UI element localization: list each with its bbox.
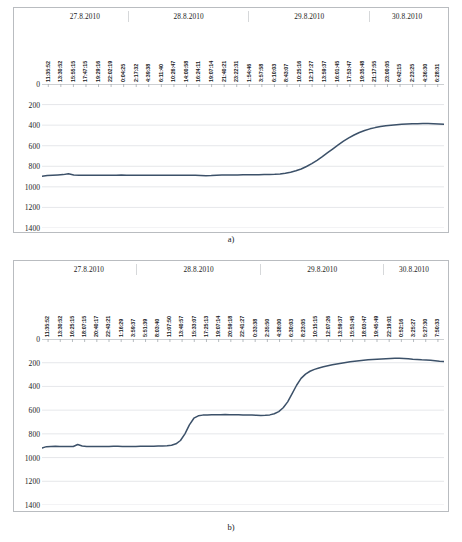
time-tick-label: 19:29:16: [95, 61, 101, 82]
time-tick-label: 16:25:15: [69, 316, 75, 337]
time-tick-label: 13:30:52: [57, 316, 63, 337]
time-tick-label: 13:40:57: [178, 316, 184, 337]
time-tick-label: 18:07:15: [81, 316, 87, 337]
y-tick-label: 200: [29, 358, 40, 367]
time-tick-label: 15:51:45: [349, 316, 355, 337]
chart-b-date-header: 27.8.201028.8.201029.8.201030.8.2010: [42, 264, 444, 275]
time-tick-label: 7:50:33: [434, 319, 440, 337]
time-tick-label: 5:51:39: [142, 319, 148, 337]
date-group-28.8.2010: 28.8.2010: [129, 11, 250, 22]
time-tick-label: 17:47:15: [82, 61, 88, 82]
date-group-28.8.2010: 28.8.2010: [137, 264, 262, 275]
time-tick-label: 19:45:49: [373, 316, 379, 337]
time-tick-label: 10:26:47: [170, 61, 176, 82]
y-tick-label: 1200: [25, 203, 40, 212]
chart-b-line-plot: [42, 339, 444, 505]
time-tick-label: 16:24:11: [195, 61, 201, 82]
y-tick-label: 200: [29, 100, 40, 109]
figure-a: 27.8.201028.8.201029.8.201030.8.2010 11:…: [0, 0, 462, 250]
time-tick-label: 0:42:15: [396, 64, 402, 82]
time-tick-label: 3:57:58: [258, 64, 264, 82]
y-tick-label: 600: [29, 406, 40, 415]
time-tick-label: 22:19:01: [386, 316, 392, 337]
y-tick-label: 1000: [25, 453, 40, 462]
y-tick-label: 800: [29, 162, 40, 171]
y-tick-label: 1400: [25, 501, 40, 510]
y-tick-label: 600: [29, 141, 40, 150]
time-tick-label: 10:15:15: [312, 316, 318, 337]
caption-a: a): [0, 234, 462, 244]
time-tick-label: 11:35:52: [45, 61, 51, 82]
time-tick-label: 20:40:17: [93, 316, 99, 337]
time-tick-label: 21:40:21: [221, 61, 227, 82]
time-tick-label: 6:10:03: [271, 64, 277, 82]
time-tick-label: 12:07:26: [325, 316, 331, 337]
chart-b-y-axis-labels: 0200400600800100012001400: [6, 339, 40, 505]
time-tick-label: 3:25:27: [410, 319, 416, 337]
time-tick-label: 13:59:37: [321, 61, 327, 82]
time-tick-label: 19:07:14: [208, 61, 214, 82]
y-tick-label: 0: [36, 80, 40, 89]
date-group-27.8.2010: 27.8.2010: [42, 11, 129, 22]
y-tick-label: 1200: [25, 477, 40, 486]
time-tick-label: 0:04:25: [120, 64, 126, 82]
time-tick-label: 11:35:52: [44, 316, 50, 337]
chart-b-time-axis-labels: 11:35:5213:30:5216:25:1518:07:1520:40:17…: [42, 277, 444, 337]
time-tick-label: 19:35:48: [359, 61, 365, 82]
figure-page: 27.8.201028.8.201029.8.201030.8.2010 11:…: [0, 0, 462, 542]
time-tick-label: 22:02:19: [107, 61, 113, 82]
y-tick-label: 0: [36, 335, 40, 344]
time-tick-label: 0:52:16: [398, 319, 404, 337]
chart-a-y-axis-labels: 0200400600800100012001400: [6, 84, 40, 228]
time-tick-label: 22:41:27: [239, 316, 245, 337]
time-tick-label: 8:43:07: [283, 64, 289, 82]
time-tick-label: 5:27:30: [422, 319, 428, 337]
data-series-line: [42, 358, 444, 448]
time-tick-label: 4:36:30: [422, 64, 428, 82]
y-tick-label: 800: [29, 429, 40, 438]
y-tick-label: 1400: [25, 224, 40, 233]
time-tick-label: 17:53:47: [346, 61, 352, 82]
figure-b: 27.8.201028.8.201029.8.201030.8.2010 11:…: [0, 250, 462, 542]
time-tick-label: 8:03:40: [154, 319, 160, 337]
time-tick-label: 8:23:05: [300, 319, 306, 337]
time-tick-label: 20:59:18: [227, 316, 233, 337]
date-group-27.8.2010: 27.8.2010: [42, 264, 137, 275]
time-tick-label: 23:00:05: [384, 61, 390, 82]
time-tick-label: 21:17:55: [371, 61, 377, 82]
time-tick-label: 6:30:03: [288, 319, 294, 337]
time-tick-label: 10:25:16: [296, 61, 302, 82]
chart-a-line-plot: [42, 84, 444, 228]
time-tick-label: 12:17:27: [308, 61, 314, 82]
time-tick-label: 18:03:47: [361, 316, 367, 337]
time-tick-label: 6:11:40: [158, 64, 164, 82]
time-tick-label: 1:54:46: [246, 64, 252, 82]
date-group-29.8.2010: 29.8.2010: [249, 11, 370, 22]
time-tick-label: 2:35:50: [264, 319, 270, 337]
time-tick-label: 1:16:29: [118, 319, 124, 337]
time-tick-label: 22:43:21: [105, 316, 111, 337]
caption-b: b): [0, 522, 462, 532]
time-tick-label: 6:28:31: [434, 64, 440, 82]
chart-a-date-header: 27.8.201028.8.201029.8.201030.8.2010: [42, 11, 444, 22]
data-series-line: [42, 124, 444, 177]
time-tick-label: 16:01:45: [334, 61, 340, 82]
time-tick-label: 19:07:14: [215, 316, 221, 337]
time-tick-label: 4:38:00: [276, 319, 282, 337]
chart-a-time-axis-labels: 11:35:5213:30:5215:55:1517:47:1519:29:16…: [42, 24, 444, 82]
time-tick-label: 11:07:50: [166, 316, 172, 337]
y-tick-label: 400: [29, 382, 40, 391]
date-group-29.8.2010: 29.8.2010: [261, 264, 384, 275]
time-tick-label: 15:33:07: [191, 316, 197, 337]
time-tick-label: 2:17:32: [133, 64, 139, 82]
y-tick-label: 400: [29, 121, 40, 130]
date-group-30.8.2010: 30.8.2010: [384, 264, 444, 275]
time-tick-label: 13:59:37: [337, 316, 343, 337]
time-tick-label: 13:30:52: [57, 61, 63, 82]
time-tick-label: 17:25:13: [203, 316, 209, 337]
time-tick-label: 0:33:38: [252, 319, 258, 337]
y-tick-label: 1000: [25, 182, 40, 191]
time-tick-label: 4:39:38: [145, 64, 151, 82]
date-group-30.8.2010: 30.8.2010: [370, 11, 444, 22]
time-tick-label: 2:23:25: [409, 64, 415, 82]
